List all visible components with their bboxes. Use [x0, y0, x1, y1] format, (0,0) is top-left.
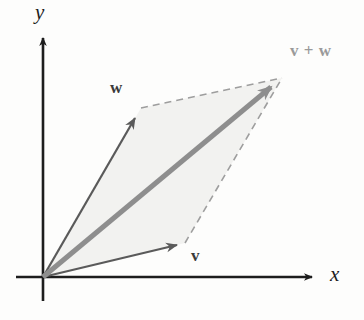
x-axis-label: x [330, 264, 339, 285]
vector-addition-figure: y x w v v + w [0, 0, 364, 320]
vector-v-label: v [191, 247, 200, 264]
y-axis-label: y [35, 2, 44, 23]
vector-v-plus-w-label: v + w [290, 42, 331, 59]
vector-w-label: w [110, 79, 122, 96]
